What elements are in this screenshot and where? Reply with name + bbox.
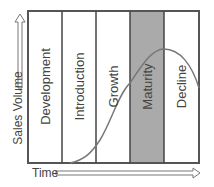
y-axis-label: Sales Volume (11, 66, 25, 150)
stage-label-growth: Growth (106, 37, 121, 137)
stage-label-development: Development (38, 37, 53, 137)
stage-label-decline: Decline (174, 37, 189, 137)
stage-label-introduction: Introduction (72, 37, 87, 137)
stage-label-maturity: Maturity (140, 37, 155, 137)
x-axis-arrow-icon (56, 168, 200, 178)
x-axis-label: Time (32, 166, 58, 180)
